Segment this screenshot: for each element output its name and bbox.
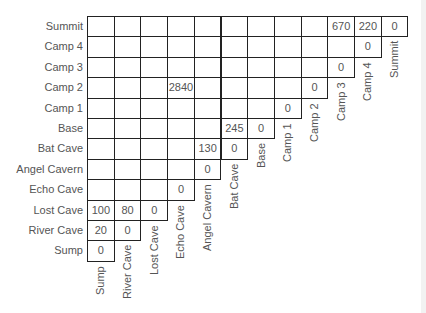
distance-table: Summit6702200Camp 40Camp 30Camp 228400Ca… (0, 0, 426, 313)
table-cell (327, 36, 355, 57)
table-cell: 0 (167, 179, 195, 200)
table-cell (140, 118, 168, 139)
table-cell: 0 (87, 240, 115, 261)
table-cell: 100 (87, 200, 115, 221)
row-label: Camp 2 (3, 77, 83, 97)
row-label: Lost Cave (3, 200, 83, 220)
table-cell (221, 57, 249, 78)
row-label: Camp 4 (3, 36, 83, 56)
table-cell (87, 16, 115, 37)
table-cell: 0 (247, 118, 275, 139)
column-label: Camp 1 (280, 123, 294, 162)
side-scroll-strip (421, 0, 426, 313)
table-cell: 20 (87, 220, 115, 241)
column-label: Bat Cave (227, 164, 241, 209)
table-cell (221, 77, 249, 98)
table-cell (247, 36, 275, 57)
table-cell: 0 (301, 77, 329, 98)
column-label: Camp 2 (307, 103, 321, 142)
table-cell (87, 98, 115, 119)
table-cell: 0 (274, 98, 302, 119)
table-cell (194, 36, 222, 57)
table-cell (247, 98, 275, 119)
table-cell: 0 (327, 57, 355, 78)
table-cell: 220 (354, 16, 382, 37)
table-cell (194, 118, 222, 139)
table-cell (194, 57, 222, 78)
column-label: Lost Cave (147, 225, 161, 275)
column-label: Base (254, 143, 268, 168)
table-cell (114, 159, 142, 180)
row-label: Sump (3, 240, 83, 260)
table-cell: 130 (194, 138, 222, 159)
table-cell (87, 57, 115, 78)
table-cell (221, 36, 249, 57)
table-cell (114, 138, 142, 159)
table-cell (87, 159, 115, 180)
table-cell (167, 118, 195, 139)
table-cell (274, 77, 302, 98)
table-cell (140, 57, 168, 78)
table-cell (194, 77, 222, 98)
table-cell (114, 98, 142, 119)
column-label: Echo Cave (173, 205, 187, 259)
table-cell (114, 16, 142, 37)
column-label: Sump (93, 266, 107, 295)
table-cell: 0 (354, 36, 382, 57)
table-cell (247, 57, 275, 78)
table-cell (167, 159, 195, 180)
table-cell (140, 138, 168, 159)
column-label: River Cave (120, 245, 134, 299)
table-cell (301, 16, 329, 37)
table-cell (87, 36, 115, 57)
table-cell (167, 138, 195, 159)
column-label: Camp 4 (360, 62, 374, 101)
table-cell (114, 77, 142, 98)
table-cell: 670 (327, 16, 355, 37)
row-label: River Cave (3, 220, 83, 240)
table-cell (87, 77, 115, 98)
table-cell: 245 (221, 118, 249, 139)
table-cell (194, 98, 222, 119)
table-cell (167, 57, 195, 78)
table-cell (114, 57, 142, 78)
table-cell (274, 36, 302, 57)
row-label: Base (3, 118, 83, 138)
column-label: Angel Cavern (200, 185, 214, 252)
row-label: Echo Cave (3, 179, 83, 199)
table-cell: 0 (381, 16, 409, 37)
table-cell (221, 98, 249, 119)
table-cell (221, 16, 249, 37)
table-cell (274, 16, 302, 37)
table-cell (301, 57, 329, 78)
table-cell (87, 179, 115, 200)
table-cell (301, 36, 329, 57)
table-cell: 0 (140, 200, 168, 221)
table-cell: 80 (114, 200, 142, 221)
table-cell (140, 98, 168, 119)
table-cell (87, 118, 115, 139)
table-cell (87, 138, 115, 159)
row-label: Camp 1 (3, 98, 83, 118)
table-cell (194, 16, 222, 37)
table-cell (167, 98, 195, 119)
row-label: Camp 3 (3, 57, 83, 77)
table-cell (114, 179, 142, 200)
row-label: Bat Cave (3, 138, 83, 158)
table-cell (274, 57, 302, 78)
table-cell (140, 16, 168, 37)
row-label: Angel Cavern (3, 159, 83, 179)
column-label: Summit (387, 41, 401, 78)
table-cell (140, 36, 168, 57)
table-cell (114, 118, 142, 139)
table-cell (247, 16, 275, 37)
table-cell (167, 36, 195, 57)
row-label: Summit (3, 16, 83, 36)
table-cell (140, 159, 168, 180)
table-cell (247, 77, 275, 98)
table-cell: 0 (221, 138, 249, 159)
table-cell (140, 179, 168, 200)
table-cell (114, 36, 142, 57)
table-cell (167, 16, 195, 37)
column-label: Camp 3 (334, 83, 348, 122)
